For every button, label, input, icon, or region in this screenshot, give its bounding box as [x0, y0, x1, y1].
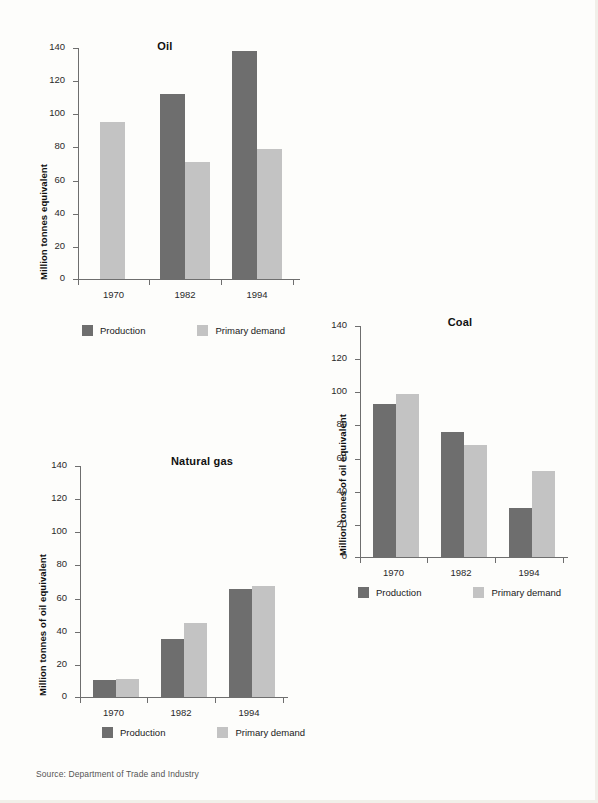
chart-oil-xlabel-1982: 1982: [155, 289, 215, 300]
chart-oil-ytick-label-120: 120: [49, 74, 65, 85]
chart-oil-ytick-100: 100: [73, 114, 78, 115]
chart-coal-ytick-label-40: 40: [336, 485, 347, 496]
bar-natural-gas-1982-production: [161, 639, 184, 697]
chart-coal-ytick-label-120: 120: [331, 352, 347, 363]
chart-oil-ytick-label-40: 40: [54, 207, 65, 218]
legend-swatch-production-icon: [102, 727, 113, 738]
chart-coal-ytick-40: 40: [355, 492, 360, 493]
chart-natural-gas-ytick-120: 120: [75, 499, 80, 500]
bar-oil-1982-production: [160, 94, 185, 279]
chart-natural-gas: Natural gas Million tonnes of oil equiva…: [22, 448, 322, 758]
chart-oil-ytick-label-140: 140: [49, 41, 65, 52]
chart-coal-legend: Production Primary demand: [358, 587, 561, 598]
legend-swatch-primary-demand-icon: [473, 587, 484, 598]
chart-oil: Oil Million tonnes equivalent 140 120 10…: [0, 30, 310, 350]
chart-coal-legend-production-label: Production: [376, 587, 421, 598]
chart-natural-gas-legend: Production Primary demand: [102, 727, 305, 738]
bar-natural-gas-1994-primary-demand: [252, 586, 275, 697]
chart-coal-xtick-2: [495, 558, 496, 563]
chart-natural-gas-legend-primary-demand: Primary demand: [217, 727, 305, 738]
chart-oil-ytick-40: 40: [73, 214, 78, 215]
chart-oil-ytick-20: 20: [73, 247, 78, 248]
chart-coal-ytick-label-80: 80: [336, 418, 347, 429]
chart-oil-xtick-0: [78, 280, 79, 285]
source-note: Source: Department of Trade and Industry: [36, 769, 199, 779]
chart-natural-gas-x-axis: [80, 697, 288, 698]
chart-natural-gas-xtick-0: [80, 698, 81, 703]
chart-oil-y-axis: [78, 48, 79, 280]
bar-oil-1970-primary-demand: [100, 122, 125, 279]
chart-natural-gas-ytick-label-0: 0: [62, 690, 67, 701]
chart-oil-xtick-1: [149, 280, 150, 285]
chart-natural-gas-xlabel-1982: 1982: [151, 707, 211, 718]
chart-oil-legend-production: Production: [82, 325, 145, 336]
chart-oil-legend-production-label: Production: [100, 325, 145, 336]
chart-coal-ytick-100: 100: [355, 392, 360, 393]
chart-natural-gas-xtick-2: [215, 698, 216, 703]
chart-natural-gas-xlabel-1970: 1970: [84, 707, 144, 718]
chart-natural-gas-legend-production: Production: [102, 727, 165, 738]
chart-natural-gas-ytick-label-140: 140: [51, 459, 67, 470]
chart-oil-legend-primary-demand: Primary demand: [197, 325, 285, 336]
chart-oil-ytick-label-20: 20: [54, 240, 65, 251]
bar-coal-1970-production: [373, 404, 396, 558]
chart-natural-gas-ytick-60: 60: [75, 599, 80, 600]
chart-natural-gas-xtick-1: [147, 698, 148, 703]
legend-swatch-production-icon: [358, 587, 369, 598]
legend-swatch-primary-demand-icon: [217, 727, 228, 738]
chart-coal-legend-production: Production: [358, 587, 421, 598]
chart-natural-gas-legend-production-label: Production: [120, 727, 165, 738]
chart-coal-x-axis: [360, 557, 568, 558]
chart-coal-ytick-label-60: 60: [336, 452, 347, 463]
chart-natural-gas-ytick-100: 100: [75, 532, 80, 533]
chart-coal: Coal Million tonnes of oil equivalent 14…: [310, 308, 598, 608]
chart-natural-gas-ytick-label-20: 20: [56, 658, 67, 669]
chart-oil-ytick-label-80: 80: [54, 140, 65, 151]
chart-oil-ytick-label-100: 100: [49, 107, 65, 118]
chart-oil-y-axis-label: Million tonnes equivalent: [38, 164, 49, 280]
chart-coal-xtick-1: [427, 558, 428, 563]
chart-coal-xtick-0: [360, 558, 361, 563]
bar-coal-1970-primary-demand: [396, 394, 419, 557]
chart-natural-gas-legend-primary-demand-label: Primary demand: [235, 727, 305, 738]
chart-natural-gas-ytick-40: 40: [75, 632, 80, 633]
chart-oil-ytick-120: 120: [73, 81, 78, 82]
chart-oil-xlabel-1994: 1994: [227, 289, 287, 300]
chart-coal-ytick-20: 20: [355, 525, 360, 526]
chart-oil-ytick-140: 140: [73, 48, 78, 49]
chart-coal-xlabel-1982: 1982: [431, 567, 491, 578]
bar-coal-1994-primary-demand: [532, 471, 555, 557]
chart-oil-ytick-label-0: 0: [60, 272, 65, 283]
bar-natural-gas-1994-production: [229, 589, 252, 697]
chart-coal-ytick-60: 60: [355, 459, 360, 460]
bar-coal-1982-primary-demand: [464, 445, 487, 557]
chart-coal-xlabel-1994: 1994: [499, 567, 559, 578]
chart-oil-plot: 140 120 100 80 60 40 20 0: [78, 48, 300, 280]
chart-oil-ytick-80: 80: [73, 147, 78, 148]
chart-oil-x-axis: [78, 279, 300, 280]
chart-coal-legend-primary-demand-label: Primary demand: [491, 587, 561, 598]
chart-coal-legend-primary-demand: Primary demand: [473, 587, 561, 598]
chart-oil-ytick-60: 60: [73, 181, 78, 182]
chart-coal-ytick-label-140: 140: [331, 319, 347, 330]
bar-oil-1994-primary-demand: [257, 149, 282, 279]
chart-natural-gas-y-axis-label: Million tonnes of oil equivalent: [37, 554, 48, 696]
chart-oil-legend: Production Primary demand: [82, 325, 285, 336]
chart-natural-gas-y-axis: [80, 466, 81, 698]
chart-coal-ytick-label-100: 100: [331, 385, 347, 396]
bar-natural-gas-1970-production: [93, 680, 116, 697]
bar-oil-1994-production: [232, 51, 257, 279]
bar-coal-1994-production: [509, 508, 532, 557]
chart-natural-gas-ytick-label-60: 60: [56, 592, 67, 603]
figure-page: Oil Million tonnes equivalent 140 120 10…: [0, 0, 598, 803]
chart-coal-xlabel-1970: 1970: [364, 567, 424, 578]
chart-coal-ytick-80: 80: [355, 425, 360, 426]
chart-oil-xtick-3: [293, 280, 294, 285]
chart-oil-legend-primary-demand-label: Primary demand: [215, 325, 285, 336]
chart-coal-ytick-label-20: 20: [336, 518, 347, 529]
chart-natural-gas-ytick-label-80: 80: [56, 558, 67, 569]
chart-coal-xtick-3: [563, 558, 564, 563]
chart-coal-y-axis: [360, 326, 361, 558]
chart-oil-xlabel-1970: 1970: [84, 289, 144, 300]
chart-natural-gas-plot: 140 120 100 80 60 40 20 0: [80, 466, 288, 698]
